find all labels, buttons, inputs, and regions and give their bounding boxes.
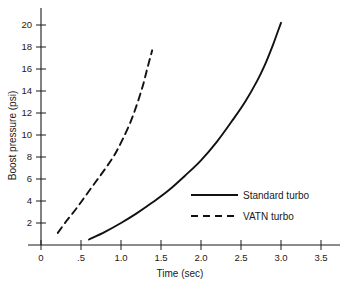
x-tick-label: 3.5 [314,253,327,263]
data-series-layer [58,23,281,240]
legend-item-standard-turbo: Standard turbo [243,190,309,201]
x-tick-label: 2.0 [194,253,207,263]
y-tick-label: 2 [6,218,32,228]
plot-canvas [0,0,346,288]
x-tick-label: .5 [77,253,85,263]
y-axis-title: Boost pressure (psi) [7,76,18,196]
x-tick-label: 3.0 [274,253,287,263]
series-line-standard-turbo [89,23,281,240]
y-tick-label: 20 [6,20,32,30]
y-tick-label: 4 [6,196,32,206]
x-tick-label: 0 [38,253,43,263]
legend-swatches [191,195,238,216]
series-line-vatn-turbo [58,50,152,233]
chart-figure: 2468101214161820 0.51.01.52.02.53.03.5 B… [0,0,346,288]
y-tick-label: 18 [6,42,32,52]
x-tick-label: 1.0 [114,253,127,263]
x-tick-label: 1.5 [154,253,167,263]
x-tick-label: 2.5 [234,253,247,263]
y-tick-label: 16 [6,64,32,74]
legend-item-vatn-turbo: VATN turbo [243,211,294,222]
x-axis-title: Time (sec) [110,268,250,279]
